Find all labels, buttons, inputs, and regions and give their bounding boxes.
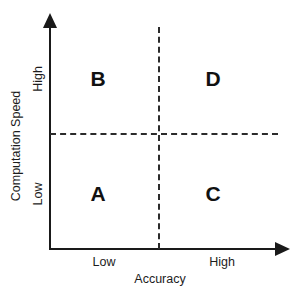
- x-axis-line: [49, 248, 277, 250]
- x-axis-arrowhead-icon: [275, 242, 290, 256]
- quadrant-label-bottom-right: C: [198, 183, 228, 204]
- vertical-divider-dashed-line: [158, 27, 160, 249]
- y-axis-line: [49, 26, 51, 250]
- x-axis-title: Accuracy: [120, 272, 200, 286]
- horizontal-divider-dashed-line: [50, 133, 278, 135]
- quadrant-label-top-right: D: [198, 68, 228, 89]
- y-axis-arrowhead-icon: [43, 13, 57, 28]
- x-axis-tick-low: Low: [74, 255, 134, 269]
- quadrant-label-bottom-left: A: [83, 183, 113, 204]
- y-axis-tick-low: Low: [31, 174, 45, 214]
- quadrant-label-top-left: B: [83, 68, 113, 89]
- y-axis-title: Computation Speed: [9, 86, 23, 206]
- x-axis-tick-high: High: [192, 255, 252, 269]
- quadrant-chart: B D A C High Low Computation Speed Low H…: [0, 0, 298, 294]
- y-axis-tick-high: High: [31, 59, 45, 99]
